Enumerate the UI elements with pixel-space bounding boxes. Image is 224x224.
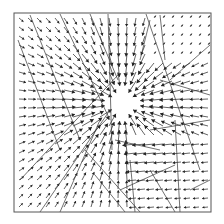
fault-line xyxy=(95,175,125,212)
arrow-head-icon xyxy=(193,197,195,200)
arrow-head-icon xyxy=(156,197,159,200)
arrow-head-icon xyxy=(100,23,103,26)
arrow-head-icon xyxy=(144,161,147,165)
arrow-head-icon xyxy=(200,123,203,126)
fault-line xyxy=(120,165,175,190)
arrow-head-icon xyxy=(117,190,120,193)
arrow-head-icon xyxy=(154,161,157,164)
arrow-head-icon xyxy=(52,89,55,92)
arrow-head-icon xyxy=(184,197,186,200)
arrow-head-icon xyxy=(172,152,175,155)
arrow-head-icon xyxy=(190,98,193,101)
arrow-head-icon xyxy=(138,197,141,200)
arrow-head-icon xyxy=(133,152,136,156)
arrow-head-icon xyxy=(173,66,176,69)
arrow-head-icon xyxy=(138,206,140,209)
arrow-head-icon xyxy=(200,81,203,84)
arrow-head-icon xyxy=(159,98,163,102)
arrow-head-icon xyxy=(117,53,121,56)
arrow-head-icon xyxy=(180,98,183,102)
arrow-head-icon xyxy=(202,206,204,209)
arrow-head-icon xyxy=(164,170,167,173)
arrow-head-icon xyxy=(88,127,92,131)
fault-line xyxy=(190,180,210,190)
arrow-head-icon xyxy=(98,85,102,89)
arrow-head-icon xyxy=(173,170,176,173)
arrow-head-icon xyxy=(33,98,36,101)
arrow-head-icon xyxy=(147,197,150,200)
arrow-head-icon xyxy=(43,98,46,101)
arrow-head-icon xyxy=(125,34,129,37)
arrow-head-icon xyxy=(23,124,26,127)
arrow-head-icon xyxy=(95,69,99,73)
arrow-head-icon xyxy=(170,105,173,109)
arrow-head-icon xyxy=(147,206,149,209)
arrow-head-icon xyxy=(127,179,130,182)
arrow-head-icon xyxy=(174,179,177,182)
arrow-head-icon xyxy=(201,161,203,164)
arrow-head-icon xyxy=(202,197,204,200)
arrow-head-icon xyxy=(200,106,203,109)
fault-line xyxy=(130,160,135,212)
arrow-head-icon xyxy=(135,161,138,165)
arrow-head-icon xyxy=(170,98,173,102)
arrow-head-icon xyxy=(100,33,103,36)
arrow-head-icon xyxy=(82,98,86,102)
arrow-head-icon xyxy=(146,69,150,73)
arrow-head-icon xyxy=(146,179,149,182)
arrow-head-icon xyxy=(140,104,144,108)
arrow-head-icon xyxy=(124,73,128,77)
arrow-head-icon xyxy=(162,143,165,147)
arrow-head-icon xyxy=(137,188,140,191)
arrow-head-icon xyxy=(42,81,45,84)
arrow-head-icon xyxy=(172,143,175,146)
arrow-head-icon xyxy=(23,81,26,84)
arrow-head-icon xyxy=(117,24,120,27)
arrow-head-icon xyxy=(42,123,45,126)
arrow-head-icon xyxy=(117,63,121,67)
arrow-head-icon xyxy=(142,23,145,26)
arrow-head-icon xyxy=(132,143,136,147)
arrow-head-icon xyxy=(75,40,78,43)
arrow-head-icon xyxy=(52,114,55,117)
fault-line xyxy=(30,15,80,140)
vector-field-plot xyxy=(0,0,224,224)
arrow-head-icon xyxy=(183,170,186,173)
arrow-head-icon xyxy=(145,170,148,173)
arrow-head-icon xyxy=(192,170,194,173)
arrow-head-icon xyxy=(124,53,128,56)
arrow-head-icon xyxy=(123,82,127,86)
arrow-head-icon xyxy=(92,105,96,109)
arrow-head-icon xyxy=(123,121,127,125)
arrow-head-icon xyxy=(164,179,167,182)
arrow-head-icon xyxy=(184,206,186,209)
arrow-head-icon xyxy=(152,143,155,147)
arrow-head-icon xyxy=(165,188,168,191)
arrow-head-icon xyxy=(100,200,103,203)
arrow-head-icon xyxy=(137,79,141,83)
arrow-head-icon xyxy=(24,89,27,92)
arrow-head-icon xyxy=(125,200,128,202)
arrow-head-icon xyxy=(192,161,195,164)
arrow-head-icon xyxy=(181,143,184,146)
arrow-head-icon xyxy=(191,152,194,155)
arrow-head-icon xyxy=(163,161,166,164)
arrow-head-icon xyxy=(174,188,176,191)
arrow-head-icon xyxy=(159,105,163,109)
arrow-head-icon xyxy=(72,105,75,109)
arrow-head-icon xyxy=(182,152,185,155)
arrow-head-icon xyxy=(125,43,129,46)
arrow-head-icon xyxy=(117,34,121,37)
arrow-head-icon xyxy=(190,106,193,109)
arrow-head-icon xyxy=(53,106,56,110)
fault-line xyxy=(160,15,165,60)
arrow-head-icon xyxy=(183,188,185,191)
arrow-head-icon xyxy=(117,43,121,46)
arrow-head-icon xyxy=(117,82,121,86)
arrow-head-icon xyxy=(117,161,121,164)
arrow-head-icon xyxy=(133,33,136,36)
arrow-head-icon xyxy=(137,124,141,128)
arrow-head-icon xyxy=(125,24,128,27)
arrow-head-icon xyxy=(149,98,153,102)
arrow-head-icon xyxy=(125,190,128,193)
